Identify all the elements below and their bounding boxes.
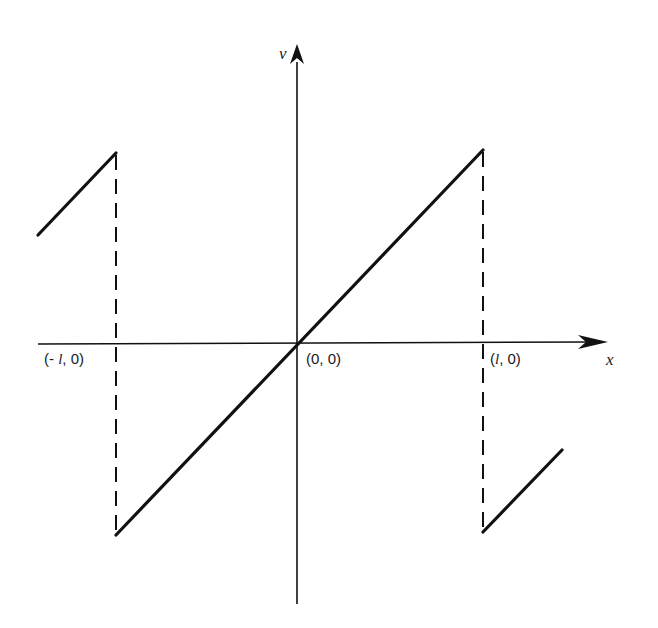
left-point-prefix: (- <box>44 350 58 367</box>
right-partial-ramp <box>483 450 562 532</box>
y-axis-arrow-icon <box>290 44 304 64</box>
left-partial-ramp <box>38 153 116 235</box>
x-axis-label: x <box>606 350 614 370</box>
origin-label: (0, 0) <box>306 350 341 367</box>
left-point-label: (- l, 0) <box>44 350 84 368</box>
right-point-label: (l, 0) <box>490 350 521 368</box>
y-axis-label: v <box>279 44 287 64</box>
x-axis <box>38 342 590 344</box>
left-point-suffix: , 0) <box>62 350 84 367</box>
right-point-suffix: , 0) <box>499 350 521 367</box>
sawtooth-diagram <box>0 0 658 628</box>
